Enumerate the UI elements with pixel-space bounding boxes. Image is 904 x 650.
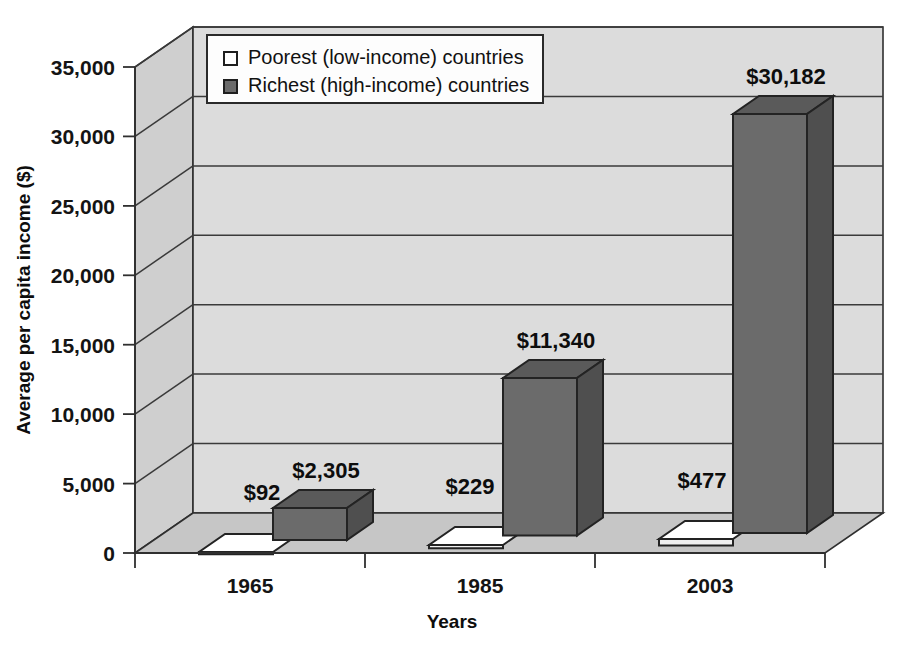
x-tick-label-1965: 1965 xyxy=(227,574,274,597)
legend-label-richest: Richest (high-income) countries xyxy=(248,74,529,96)
legend-label-poorest: Poorest (low-income) countries xyxy=(248,46,524,68)
value-label-1985-richest: $11,340 xyxy=(517,328,595,353)
bar-2003-richest[interactable] xyxy=(733,96,833,533)
legend-item-poorest[interactable]: Poorest (low-income) countries xyxy=(224,46,524,68)
value-label-1965-poorest: $92 xyxy=(244,480,281,505)
legend-item-richest[interactable]: Richest (high-income) countries xyxy=(224,74,529,96)
y-tick-label-30000: 30,000 xyxy=(51,125,115,148)
value-label-2003-poorest: $477 xyxy=(678,468,727,493)
bar-1965-richest[interactable] xyxy=(273,490,373,540)
x-tick-label-1985: 1985 xyxy=(457,574,504,597)
y-axis-title: Average per capita income ($) xyxy=(13,165,34,435)
y-tick-label-5000: 5,000 xyxy=(62,473,115,496)
y-tick-label-20000: 20,000 xyxy=(51,264,115,287)
filled-square-marker xyxy=(224,80,237,93)
y-tick-label-25000: 25,000 xyxy=(51,195,115,218)
y-tick-label-15000: 15,000 xyxy=(51,334,115,357)
plot-left-wall xyxy=(135,27,193,553)
y-axis xyxy=(123,67,135,553)
x-axis-title: Years xyxy=(427,611,478,632)
y-tick-label-35000: 35,000 xyxy=(51,56,115,79)
x-tick-label-2003: 2003 xyxy=(687,574,734,597)
bar-chart-3d: 35,000 30,000 25,000 20,000 15,000 10,00… xyxy=(0,0,904,650)
value-label-1985-poorest: $229 xyxy=(446,474,495,499)
chart-legend[interactable]: Poorest (low-income) countries Richest (… xyxy=(207,35,543,103)
bar-1985-richest[interactable] xyxy=(503,360,603,536)
open-square-marker xyxy=(224,52,237,65)
chart-container: 35,000 30,000 25,000 20,000 15,000 10,00… xyxy=(0,0,904,650)
value-label-2003-richest: $30,182 xyxy=(746,64,826,89)
y-tick-label-0: 0 xyxy=(103,542,115,565)
value-label-1965-richest: $2,305 xyxy=(292,458,359,483)
y-tick-label-10000: 10,000 xyxy=(51,403,115,426)
